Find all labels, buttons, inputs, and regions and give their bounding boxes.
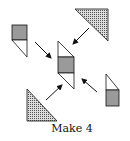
- white-triangle: [106, 74, 119, 90]
- arrow-right: [82, 79, 97, 92]
- white-triangle-top: [58, 41, 74, 57]
- caption: Make 4: [0, 122, 130, 135]
- gray-square: [58, 57, 74, 73]
- center-block: [58, 41, 74, 89]
- gray-square: [12, 25, 27, 40]
- arrow-top-right: [73, 28, 89, 44]
- arrow-top-left: [35, 42, 51, 58]
- arrow-bottom-left: [46, 85, 62, 100]
- right-piece: [106, 74, 119, 106]
- quilt-block-assembly-diagram: [0, 0, 130, 141]
- caption-text: Make 4: [51, 122, 93, 135]
- gray-square: [106, 90, 119, 106]
- top-right-dotted-triangle: [75, 9, 108, 41]
- top-left-piece: [12, 25, 27, 57]
- white-triangle: [12, 40, 27, 57]
